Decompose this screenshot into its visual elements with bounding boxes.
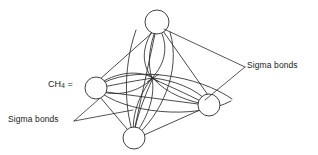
tetrahedron-diagram <box>0 0 318 155</box>
leader-left-upper <box>74 110 133 121</box>
atom-circle-right <box>198 94 220 116</box>
formula-label: CH4 = <box>48 80 73 90</box>
edge-left-bottom <box>100 97 127 129</box>
atom-circle-bottom <box>123 127 145 149</box>
sigma-bond-orbitals <box>96 24 232 137</box>
leader-right-upper <box>164 29 245 67</box>
edge-top-left <box>99 32 153 80</box>
formula-equals: = <box>65 79 73 89</box>
sigma-bonds-label-left: Sigma bonds <box>8 115 59 124</box>
leader-left-lower <box>74 99 99 121</box>
atom-circle-left <box>85 77 107 99</box>
central-carbon-node <box>147 74 159 82</box>
formula-prefix: CH <box>48 79 61 89</box>
tetrahedron-edges <box>99 31 208 135</box>
methane-sigma-bond-figure: CH4 = Sigma bonds Sigma bonds <box>0 0 318 155</box>
edge-top-right <box>163 31 208 95</box>
sigma-bonds-label-right: Sigma bonds <box>247 61 298 70</box>
atom-circle-top <box>145 10 169 34</box>
edge-right-bottom <box>144 110 200 135</box>
leader-right-lower <box>205 67 245 100</box>
